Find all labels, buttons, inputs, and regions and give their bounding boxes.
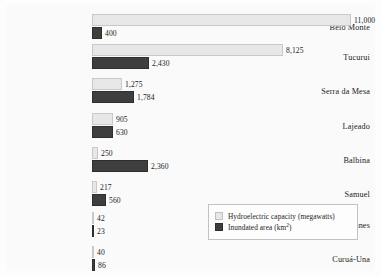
legend-label-area: Inundated area (km2) <box>228 222 291 232</box>
legend-label-area-prefix: Inundated area (km <box>228 223 286 232</box>
area-value: 630 <box>113 128 128 137</box>
capacity-bar-line: 1,275 <box>92 78 143 90</box>
capacity-bar-line: 42 <box>92 212 105 224</box>
bar-group: 11,000 400 <box>92 13 375 43</box>
area-bar <box>92 91 134 103</box>
legend-item-area: Inundated area (km2) <box>215 222 351 232</box>
area-bar <box>92 126 113 138</box>
legend-swatch-dark-icon <box>215 223 223 231</box>
capacity-bar <box>92 113 113 125</box>
area-value: 560 <box>106 196 121 205</box>
chart-row: Belo Monte 11,000 400 <box>6 13 375 43</box>
capacity-value: 40 <box>94 248 105 257</box>
area-bar <box>92 27 102 39</box>
area-value: 23 <box>94 227 105 236</box>
capacity-value: 11,000 <box>351 16 375 25</box>
legend-label-area-suffix: ) <box>289 223 292 232</box>
area-value: 1,784 <box>134 93 155 102</box>
capacity-value: 8,125 <box>283 46 304 55</box>
capacity-bar-line: 217 <box>92 181 112 193</box>
capacity-bar <box>92 78 122 90</box>
bar-group: 250 2,360 <box>92 146 375 176</box>
capacity-bar <box>92 14 351 26</box>
area-bar-line: 560 <box>92 194 121 206</box>
chart-legend: Hydroelectric capacity (megawatts) Inund… <box>208 204 358 240</box>
area-bar-line: 400 <box>92 27 117 39</box>
capacity-value: 905 <box>113 115 128 124</box>
capacity-value: 42 <box>94 214 105 223</box>
area-bar <box>92 57 149 69</box>
hydroelectric-dams-bar-chart: Belo Monte 11,000 400 Tucurui 8,125 <box>0 0 381 276</box>
area-value: 86 <box>95 261 106 270</box>
area-bar-line: 2,430 <box>92 57 170 69</box>
capacity-bar-line: 905 <box>92 113 128 125</box>
legend-item-capacity: Hydroelectric capacity (megawatts) <box>215 212 351 221</box>
capacity-bar-line: 250 <box>92 147 113 159</box>
capacity-value: 250 <box>98 149 113 158</box>
chart-row: Curuá-Una 40 86 <box>6 245 375 275</box>
capacity-bar-line: 40 <box>92 246 105 258</box>
area-bar-line: 23 <box>92 225 105 237</box>
chart-row: Lajeado 905 630 <box>6 112 375 142</box>
capacity-bar <box>92 44 283 56</box>
bar-group: 40 86 <box>92 245 375 275</box>
area-bar-line: 630 <box>92 126 128 138</box>
bar-group: 8,125 2,430 <box>92 43 375 73</box>
legend-swatch-light-icon <box>215 212 223 220</box>
area-value: 2,430 <box>149 59 170 68</box>
chart-row: Serra da Mesa 1,275 1,784 <box>6 77 375 107</box>
chart-row: Balbina 250 2,360 <box>6 146 375 176</box>
capacity-bar-line: 11,000 <box>92 14 375 26</box>
legend-label-capacity: Hydroelectric capacity (megawatts) <box>228 212 335 221</box>
capacity-bar-line: 8,125 <box>92 44 304 56</box>
chart-row: Tucurui 8,125 2,430 <box>6 43 375 73</box>
area-value: 400 <box>102 29 117 38</box>
area-bar-line: 86 <box>92 259 106 271</box>
capacity-value: 1,275 <box>122 80 143 89</box>
area-bar-line: 1,784 <box>92 91 155 103</box>
bar-group: 905 630 <box>92 112 375 142</box>
area-value: 2,360 <box>148 162 169 171</box>
capacity-value: 217 <box>97 183 112 192</box>
area-bar-line: 2,360 <box>92 160 169 172</box>
bar-group: 1,275 1,784 <box>92 77 375 107</box>
plot-area: Belo Monte 11,000 400 Tucurui 8,125 <box>6 5 375 271</box>
area-bar <box>92 194 106 206</box>
area-bar <box>92 160 148 172</box>
